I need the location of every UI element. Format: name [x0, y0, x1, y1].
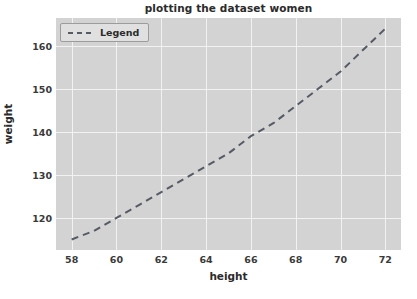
y-axis-label: weight [2, 94, 14, 154]
legend-label: Legend [100, 27, 139, 38]
x-tick-label: 60 [96, 254, 136, 265]
plot-area: Legend [56, 18, 401, 250]
y-tick-label: 130 [4, 169, 52, 180]
data-series-layer [56, 18, 401, 250]
x-tick-label: 58 [52, 254, 92, 265]
legend-line-sample [67, 28, 93, 38]
chart-figure: plotting the dataset women Legend 120130… [0, 0, 417, 299]
y-tick-label: 120 [4, 212, 52, 223]
x-tick-label: 64 [186, 254, 226, 265]
x-tick-label: 68 [276, 254, 316, 265]
x-tick-label: 62 [141, 254, 181, 265]
x-tick-label: 72 [365, 254, 405, 265]
chart-title: plotting the dataset women [56, 2, 401, 14]
y-tick-label: 160 [4, 40, 52, 51]
x-tick-label: 66 [231, 254, 271, 265]
x-axis-label: height [56, 270, 401, 282]
x-tick-label: 70 [321, 254, 361, 265]
x-axis-tick-labels: 5860626466687072 [56, 254, 401, 268]
legend[interactable]: Legend [60, 23, 149, 42]
data-line-legend [72, 29, 386, 240]
y-tick-label: 150 [4, 83, 52, 94]
